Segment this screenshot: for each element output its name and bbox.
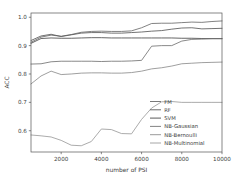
y-axis-ticks: 0.60.70.80.91.0 [18,14,31,133]
y-tick-label: 0.8 [18,71,27,77]
x-tick-label: 4000 [94,156,109,162]
legend-label: SVM [164,115,176,121]
legend-label: NB-Multinomial [164,140,204,146]
x-axis-label: number of PSI [106,167,148,173]
x-tick-label: 8000 [175,156,190,162]
x-tick-label: 10000 [213,156,231,162]
y-tick-label: 0.9 [18,43,27,49]
line-chart: 200040006000800010000 0.60.70.80.91.0 nu… [0,0,232,178]
x-axis-ticks: 200040006000800010000 [54,152,231,162]
y-tick-label: 0.6 [18,128,27,134]
x-tick-label: 6000 [134,156,149,162]
y-tick-label: 0.7 [18,99,27,105]
chart-figure: 200040006000800010000 0.60.70.80.91.0 nu… [0,0,232,178]
legend-label: NB-Bernoulli [164,132,197,138]
y-axis-label: ACC [4,76,10,88]
x-tick-label: 2000 [54,156,69,162]
y-tick-label: 1.0 [18,14,27,20]
legend-label: FM [164,99,172,105]
legend-label: RF [164,107,171,113]
legend-label: NB-Gaussian [164,123,198,129]
